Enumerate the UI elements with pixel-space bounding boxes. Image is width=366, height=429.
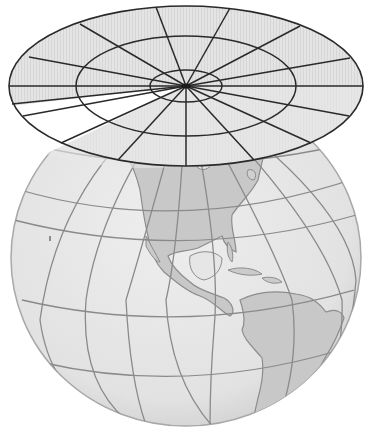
projection-figure: Azimuthal (planar) map projection A flat…	[0, 0, 366, 429]
projection-diagram	[0, 0, 366, 429]
pacific-island	[49, 236, 51, 241]
tangent-point-north-pole	[181, 84, 191, 89]
